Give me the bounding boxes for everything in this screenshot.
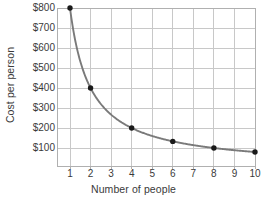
x-tick-label: 5 [141, 168, 163, 179]
x-tick-label: 2 [80, 168, 102, 179]
x-tick-label: 10 [244, 168, 266, 179]
x-tick-label: 3 [100, 168, 122, 179]
x-axis-label: Number of people [0, 183, 267, 195]
x-tick-label: 9 [223, 168, 245, 179]
x-tick-label: 6 [162, 168, 184, 179]
plot-frame [57, 8, 255, 166]
data-point [170, 139, 175, 144]
x-tick-label: 1 [59, 168, 81, 179]
data-point [129, 125, 134, 130]
cost-per-person-chart: Cost per person $100$200$300$400$500$600… [0, 0, 267, 203]
x-tick-label: 8 [203, 168, 225, 179]
data-point [252, 149, 257, 154]
x-tick-label: 4 [121, 168, 143, 179]
data-point [67, 5, 72, 10]
x-axis-tick-labels: 12345678910 [0, 168, 267, 182]
x-tick-label: 7 [182, 168, 204, 179]
data-point [88, 85, 93, 90]
data-curve [70, 8, 255, 152]
vertical-gridlines [70, 8, 255, 166]
data-point [211, 145, 216, 150]
